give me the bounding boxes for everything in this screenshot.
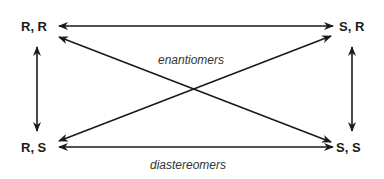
label-enantiomers: enantiomers: [158, 53, 224, 67]
relationship-arrows: [0, 0, 384, 179]
node-rr: R, R: [21, 19, 47, 34]
node-ss: S, S: [336, 140, 361, 155]
label-diastereomers: diastereomers: [150, 158, 226, 172]
node-rs: R, S: [21, 140, 46, 155]
node-sr: S, R: [339, 19, 364, 34]
arrow-rs-sr: [59, 36, 331, 141]
